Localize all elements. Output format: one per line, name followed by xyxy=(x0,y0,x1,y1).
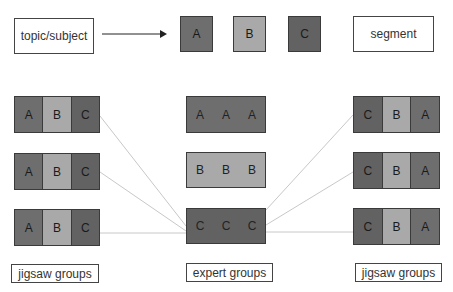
cell: A xyxy=(213,108,239,122)
legend-segment-c: C xyxy=(288,16,321,52)
legend-segment-c-letter: C xyxy=(300,27,309,41)
jigsaw-right-group-3: C B A xyxy=(353,208,440,245)
cell: B xyxy=(383,97,412,132)
jigsaw-groups-right-label-box: jigsaw groups xyxy=(355,263,442,282)
topic-subject-box: topic/subject xyxy=(14,18,94,54)
connector-left-1 xyxy=(100,116,186,226)
segment-box: segment xyxy=(353,16,434,52)
jigsaw-left-group-1: A B C xyxy=(14,96,100,133)
cell: C xyxy=(72,97,99,132)
cell: A xyxy=(15,154,43,189)
cell: A xyxy=(187,108,213,122)
cell: C xyxy=(187,219,213,233)
cell: A xyxy=(411,97,439,132)
jigsaw-right-group-1: C B A xyxy=(353,96,440,133)
arrow-head-icon xyxy=(160,30,167,38)
jigsaw-left-group-3: A B C xyxy=(14,209,100,246)
jigsaw-groups-right-label: jigsaw groups xyxy=(362,266,435,280)
cell: A xyxy=(411,209,439,244)
cell: C xyxy=(354,209,383,244)
cell: B xyxy=(239,163,265,177)
cell: C xyxy=(354,97,383,132)
segment-label: segment xyxy=(370,27,416,41)
cell: C xyxy=(354,153,383,188)
cell: B xyxy=(43,210,71,245)
topic-subject-label: topic/subject xyxy=(21,29,88,43)
cell: C xyxy=(239,219,265,233)
cell: A xyxy=(411,153,439,188)
expert-group-b: B B B xyxy=(186,152,266,188)
cell: B xyxy=(43,97,71,132)
cell: A xyxy=(15,97,43,132)
cell: A xyxy=(239,108,265,122)
legend-segment-b: B xyxy=(233,16,266,52)
connector-right-1 xyxy=(266,115,353,210)
connector-left-2 xyxy=(100,172,186,231)
cell: C xyxy=(72,210,99,245)
cell: B xyxy=(383,153,412,188)
jigsaw-groups-left-label-box: jigsaw groups xyxy=(11,264,99,283)
cell: B xyxy=(43,154,71,189)
legend-segment-a-letter: A xyxy=(192,27,200,41)
cell: B xyxy=(213,163,239,177)
expert-groups-label-box: expert groups xyxy=(186,263,273,282)
expert-group-c: C C C xyxy=(186,208,266,244)
legend-segment-b-letter: B xyxy=(245,27,253,41)
cell: A xyxy=(15,210,43,245)
cell: B xyxy=(383,209,412,244)
jigsaw-right-group-2: C B A xyxy=(353,152,440,189)
cell: C xyxy=(213,219,239,233)
expert-group-a: A A A xyxy=(186,96,266,133)
expert-groups-label: expert groups xyxy=(193,266,266,280)
jigsaw-groups-left-label: jigsaw groups xyxy=(18,267,91,281)
cell: B xyxy=(187,163,213,177)
jigsaw-left-group-2: A B C xyxy=(14,153,100,190)
legend-segment-a: A xyxy=(180,16,213,52)
cell: C xyxy=(72,154,99,189)
connector-right-2 xyxy=(266,172,353,225)
